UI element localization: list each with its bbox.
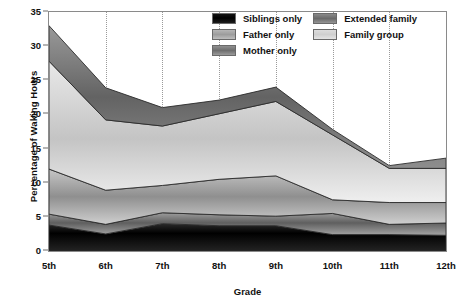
- y-tick-label: 0: [1, 245, 41, 256]
- x-tick-label: 6th: [99, 260, 113, 271]
- x-tick-label: 10th: [323, 260, 343, 271]
- x-axis-title: Grade: [48, 286, 447, 297]
- legend-label-extended-family: Extended family: [344, 13, 421, 24]
- legend-swatch-extended-family: [313, 13, 337, 24]
- x-tick-label: 11th: [380, 260, 399, 271]
- x-tick-label: 9th: [269, 260, 283, 271]
- legend-swatch-family-group: [313, 29, 337, 40]
- x-tick-label: 12th: [436, 260, 456, 271]
- legend-label-siblings-only: Siblings only: [243, 13, 306, 24]
- x-tick-label: 5th: [42, 260, 56, 271]
- legend-label-family-group: Family group: [344, 29, 421, 40]
- legend-swatch-siblings-only: [212, 13, 236, 24]
- x-tick-label: 7th: [155, 260, 169, 271]
- y-axis-title: Percentage of Waking Hours: [28, 42, 39, 232]
- legend-label-father-only: Father only: [243, 29, 306, 40]
- x-tick-label: 8th: [212, 260, 226, 271]
- legend-swatch-father-only: [212, 29, 236, 40]
- chart-legend: Siblings onlyExtended familyFather onlyF…: [212, 13, 421, 56]
- y-tick-label: 20: [1, 108, 41, 119]
- y-tick-label: 10: [1, 176, 41, 187]
- legend-swatch-mother-only: [212, 45, 236, 56]
- y-tick-label: 30: [1, 40, 41, 51]
- y-tick-label: 15: [1, 142, 41, 153]
- legend-label-mother-only: Mother only: [243, 45, 306, 56]
- y-tick-label: 25: [1, 74, 41, 85]
- y-tick-label: 35: [1, 6, 41, 17]
- y-tick-label: 5: [1, 210, 41, 221]
